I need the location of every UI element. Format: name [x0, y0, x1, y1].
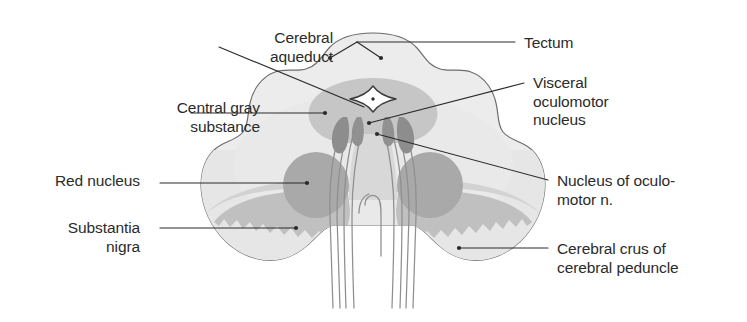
red-nucleus-left — [283, 152, 349, 218]
red-nucleus-right — [397, 152, 463, 218]
label-substantia-nigra: Substantia nigra — [20, 219, 140, 256]
label-tectum: Tectum — [524, 34, 654, 53]
label-red-nucleus: Red nucleus — [5, 172, 140, 191]
label-visceral-oculomotor-nucleus: Visceral oculomotor nucleus — [533, 74, 693, 130]
label-central-gray-substance: Central gray substance — [55, 99, 260, 136]
label-cerebral-crus-of-cerebral-peduncle: Cerebral crus of cerebral peduncle — [557, 240, 747, 277]
label-cerebral-aqueduct: Cerebral aqueduct — [128, 29, 333, 66]
label-nucleus-of-oculomotor-n: Nucleus of oculo- motor n. — [557, 172, 747, 209]
